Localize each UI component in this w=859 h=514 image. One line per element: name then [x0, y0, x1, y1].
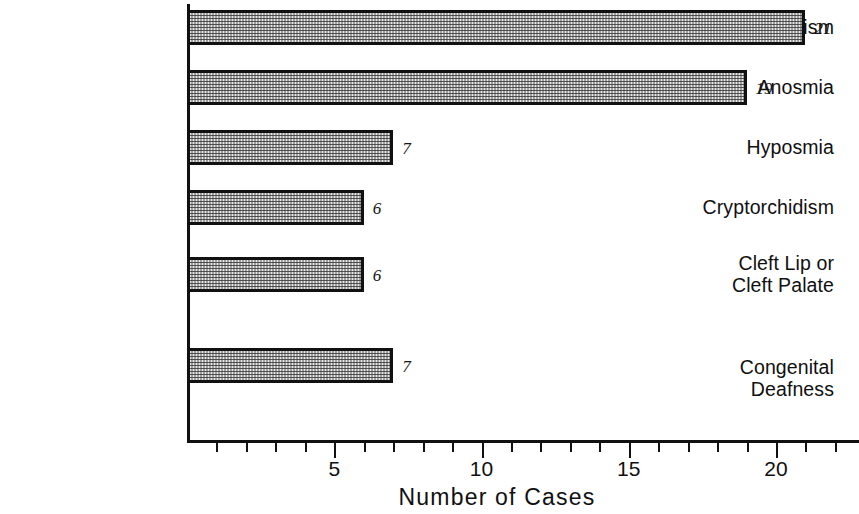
bar-row: 6 — [187, 190, 835, 225]
x-tick-minor — [805, 443, 807, 452]
x-tick-minor — [511, 443, 513, 452]
bar-value-label: 7 — [402, 139, 411, 156]
x-tick-major — [334, 443, 336, 458]
x-tick-major — [776, 443, 778, 458]
bar — [187, 257, 364, 292]
x-tick-minor — [452, 443, 454, 452]
x-tick-major — [629, 443, 631, 458]
x-axis-line — [187, 440, 859, 443]
bar-row: 7 — [187, 348, 835, 383]
bar-row: 19 — [187, 70, 835, 105]
plot-area: 21197667 5101520 Number of Cases — [187, 0, 834, 514]
x-tick-label: 20 — [764, 458, 787, 480]
x-tick-minor — [835, 443, 837, 452]
x-tick-minor — [393, 443, 395, 452]
x-tick-minor — [305, 443, 307, 452]
x-tick-minor — [423, 443, 425, 452]
bar-row: 21 — [187, 10, 835, 45]
x-tick-minor — [688, 443, 690, 452]
bar-value-label: 19 — [756, 79, 773, 96]
x-tick-label: 10 — [470, 458, 493, 480]
bar-row: 6 — [187, 257, 835, 292]
bar — [187, 190, 364, 225]
x-tick-major — [482, 443, 484, 458]
x-axis-title: Number of Cases — [399, 484, 596, 510]
x-tick-minor — [747, 443, 749, 452]
bar-value-label: 6 — [373, 199, 382, 216]
x-tick-minor — [540, 443, 542, 452]
x-tick-minor — [364, 443, 366, 452]
x-tick-minor — [216, 443, 218, 452]
bar-value-label: 6 — [373, 266, 382, 283]
bar — [187, 130, 393, 165]
x-tick-label: 15 — [617, 458, 640, 480]
bar-row: 7 — [187, 130, 835, 165]
x-tick-label: 5 — [328, 458, 340, 480]
x-tick-minor — [658, 443, 660, 452]
bar — [187, 348, 393, 383]
bar — [187, 70, 747, 105]
x-tick-minor — [246, 443, 248, 452]
bar — [187, 10, 805, 45]
bar-value-label: 7 — [402, 357, 411, 374]
x-tick-minor — [717, 443, 719, 452]
x-tick-minor — [599, 443, 601, 452]
x-tick-minor — [570, 443, 572, 452]
bar-value-label: 21 — [814, 19, 831, 36]
x-tick-minor — [275, 443, 277, 452]
